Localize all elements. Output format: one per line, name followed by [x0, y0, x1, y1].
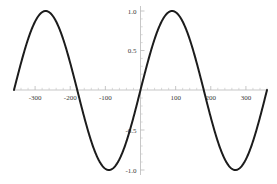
y-axis-tick-labels: 1.00.5-0.5-1.0	[125, 8, 137, 175]
x-tick-label: -300	[29, 94, 42, 102]
plot-canvas: -300-200-100100200300 1.00.5-0.5-1.0	[0, 0, 277, 184]
y-tick-label: -1.0	[125, 167, 137, 175]
x-tick-label: -200	[64, 94, 77, 102]
x-tick-label: 100	[170, 94, 181, 102]
x-tick-label: 300	[241, 94, 252, 102]
x-tick-label: -100	[99, 94, 112, 102]
sine-plot-figure: -300-200-100100200300 1.00.5-0.5-1.0	[0, 0, 277, 184]
y-tick-label: 0.5	[128, 47, 137, 55]
y-tick-label: 1.0	[128, 8, 137, 16]
